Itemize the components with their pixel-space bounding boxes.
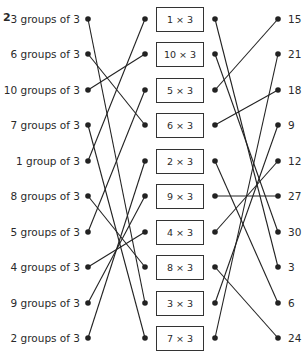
connection-dot[interactable] (275, 229, 281, 235)
connection-dot[interactable] (212, 51, 218, 57)
connector-line (215, 125, 278, 303)
connection-dot[interactable] (85, 87, 91, 93)
connection-dot[interactable] (85, 158, 91, 164)
connection-dot[interactable] (212, 300, 218, 306)
connection-dot[interactable] (85, 264, 91, 270)
connection-dot[interactable] (142, 335, 148, 341)
connector-line (88, 196, 145, 267)
connection-dot[interactable] (142, 87, 148, 93)
connection-dot[interactable] (275, 335, 281, 341)
connection-dot[interactable] (142, 193, 148, 199)
connection-dot[interactable] (275, 51, 281, 57)
connection-dot[interactable] (275, 16, 281, 22)
connection-dot[interactable] (142, 16, 148, 22)
connector-line (88, 161, 145, 338)
connection-dot[interactable] (212, 193, 218, 199)
connection-dot[interactable] (142, 229, 148, 235)
connection-dot[interactable] (142, 264, 148, 270)
connection-dot[interactable] (212, 158, 218, 164)
connection-dot[interactable] (85, 300, 91, 306)
connection-dot[interactable] (275, 87, 281, 93)
connection-dot[interactable] (85, 51, 91, 57)
connection-dot[interactable] (142, 122, 148, 128)
connection-dot[interactable] (212, 264, 218, 270)
connector-line (88, 19, 145, 161)
connection-dot[interactable] (212, 335, 218, 341)
connection-dot[interactable] (212, 87, 218, 93)
connector-line (215, 54, 278, 232)
connection-dot[interactable] (142, 300, 148, 306)
connection-dot[interactable] (275, 193, 281, 199)
connection-dot[interactable] (275, 122, 281, 128)
connection-dot[interactable] (275, 264, 281, 270)
connection-dot[interactable] (212, 16, 218, 22)
matching-lines (0, 0, 304, 351)
connection-dot[interactable] (85, 193, 91, 199)
connector-line (88, 90, 145, 232)
connection-dot[interactable] (212, 229, 218, 235)
connection-dot[interactable] (142, 51, 148, 57)
connection-dot[interactable] (275, 300, 281, 306)
connection-dot[interactable] (275, 158, 281, 164)
connection-dot[interactable] (85, 16, 91, 22)
connection-dot[interactable] (85, 335, 91, 341)
connection-dot[interactable] (85, 229, 91, 235)
connection-dot[interactable] (212, 122, 218, 128)
connection-dot[interactable] (142, 158, 148, 164)
connection-dot[interactable] (85, 122, 91, 128)
